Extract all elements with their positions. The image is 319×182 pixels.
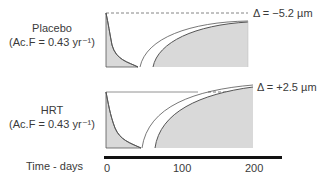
tick-0: 0 [104,162,110,174]
tick-200: 200 [245,162,263,174]
time-axis-bar [104,156,282,159]
tick-100: 100 [173,162,191,174]
placebo-panel [106,13,248,67]
hrt-delta: Δ = +2.5 µm [257,81,317,93]
placebo-formation-area [153,22,248,67]
time-axis-label: Time - days [26,160,83,172]
hrt-panel [106,85,253,148]
hrt-formation-area [155,87,253,148]
placebo-delta: Δ = −5.2 µm [253,7,313,19]
